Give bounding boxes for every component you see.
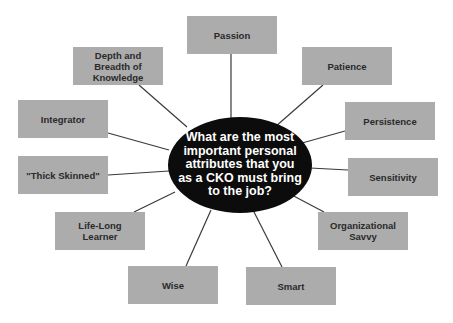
node-smart: Smart [246,267,336,305]
node-passion: Passion [187,16,277,54]
node-life-long-learner: Life-Long Learner [55,212,145,250]
node-sensitivity: Sensitivity [348,158,438,196]
connector-depth-breadth [139,85,187,127]
node-integrator: Integrator [18,100,108,138]
node-organizational-savvy: Organizational Savvy [318,212,408,250]
connector-smart [253,210,282,267]
node-persistence: Persistence [345,102,435,140]
node-thick-skinned: "Thick Skinned" [18,156,108,194]
connector-sensitivity [310,168,348,170]
node-depth-breadth-knowledge: Depth and Breadth of Knowledge [73,47,163,85]
node-wise: Wise [128,266,218,304]
connector-wise [186,210,211,266]
connector-life-long-learner [134,192,175,212]
connector-thick-skinned [108,171,169,175]
central-question: What are the most important personal att… [168,117,312,213]
connector-integrator [108,133,169,150]
connector-patience [275,85,323,127]
node-patience: Patience [302,47,392,85]
